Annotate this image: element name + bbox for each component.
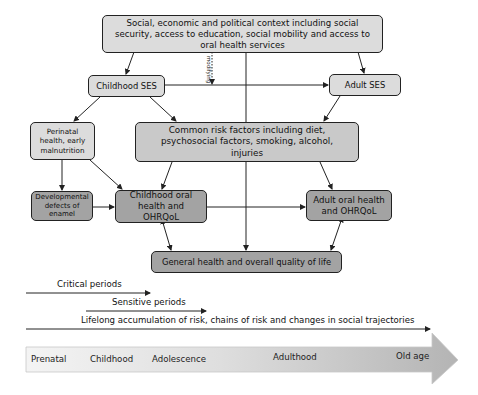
perinatal-box: Perinatal health, early malnutrition — [30, 122, 95, 160]
childhood-ses-box: Childhood SES — [88, 75, 165, 97]
childhood-oral-health-box: Childhood oral health and OHRQoL — [115, 190, 207, 223]
stage-adolescence: Adolescence — [152, 354, 206, 364]
context-box: Social, economic and political context i… — [102, 15, 383, 53]
developmental-defects-box: Developmental defects of enamel — [31, 191, 93, 221]
adult-ses-box: Adult SES — [329, 74, 401, 96]
sensitive-periods-label: Sensitive periods — [112, 297, 186, 307]
stage-adulthood: Adulthood — [273, 352, 317, 362]
stage-prenatal: Prenatal — [31, 354, 66, 364]
adult-oral-health-box: Adult oral health and OHRQoL — [306, 190, 392, 221]
stage-childhood: Childhood — [90, 354, 133, 364]
modifying-label: modifying — [206, 56, 212, 83]
common-risk-box: Common risk factors including diet, psyc… — [135, 122, 359, 162]
general-health-box: General health and overall quality of li… — [151, 251, 342, 273]
lifelong-accumulation-label: Lifelong accumulation of risk, chains of… — [81, 315, 414, 325]
stage-old-age: Old age — [396, 351, 429, 361]
critical-periods-label: Critical periods — [57, 279, 122, 289]
